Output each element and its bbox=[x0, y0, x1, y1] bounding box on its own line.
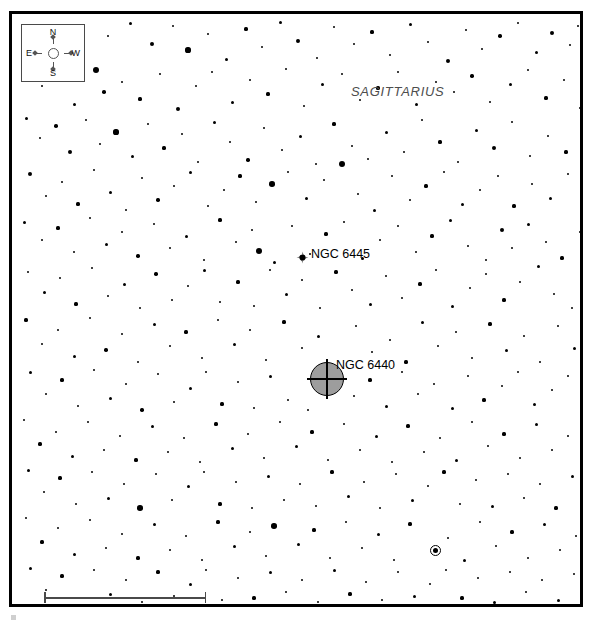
star bbox=[195, 85, 198, 88]
ngc-6445-planetary-nebula-marker[interactable] bbox=[296, 250, 309, 263]
star bbox=[305, 197, 308, 200]
star bbox=[136, 556, 139, 559]
star bbox=[25, 117, 28, 120]
star bbox=[151, 425, 154, 428]
star bbox=[235, 481, 238, 484]
star bbox=[43, 491, 46, 494]
star bbox=[567, 435, 570, 438]
star bbox=[460, 596, 463, 599]
star bbox=[329, 557, 332, 560]
star bbox=[261, 46, 263, 48]
star bbox=[507, 473, 510, 476]
star bbox=[312, 528, 315, 531]
star bbox=[25, 517, 28, 520]
star bbox=[481, 48, 483, 50]
star bbox=[253, 407, 255, 409]
star bbox=[393, 559, 396, 562]
compass-label-south: S bbox=[50, 69, 56, 78]
star bbox=[510, 530, 513, 533]
star bbox=[237, 577, 239, 579]
star bbox=[421, 321, 424, 324]
star bbox=[303, 105, 306, 108]
star bbox=[93, 369, 95, 371]
star bbox=[153, 223, 156, 226]
star bbox=[231, 101, 234, 104]
star bbox=[154, 272, 157, 275]
star bbox=[141, 177, 143, 179]
star bbox=[509, 571, 512, 574]
star bbox=[485, 273, 488, 276]
star bbox=[317, 601, 319, 603]
star bbox=[333, 26, 336, 29]
star bbox=[485, 259, 488, 262]
star bbox=[571, 475, 574, 478]
star bbox=[512, 204, 515, 207]
star bbox=[535, 423, 538, 426]
star bbox=[317, 335, 320, 338]
star bbox=[332, 122, 335, 125]
star bbox=[559, 549, 562, 552]
star bbox=[105, 547, 108, 550]
star bbox=[453, 91, 456, 94]
star bbox=[357, 193, 360, 196]
star bbox=[316, 57, 319, 60]
star bbox=[55, 431, 57, 433]
star bbox=[38, 442, 41, 445]
star bbox=[427, 41, 430, 44]
star bbox=[563, 79, 566, 82]
star bbox=[315, 163, 318, 166]
star bbox=[377, 533, 380, 536]
constellation-label: SAGITTARIUS bbox=[351, 85, 444, 98]
star bbox=[333, 569, 336, 572]
star bbox=[429, 583, 432, 586]
star bbox=[173, 185, 176, 188]
star bbox=[89, 317, 92, 320]
star bbox=[409, 199, 411, 201]
star bbox=[171, 499, 173, 501]
chart-frame: NGC 6440 NGC 6445 SAGITTARIUS N S E W 15… bbox=[9, 11, 583, 607]
star bbox=[461, 203, 464, 206]
star bbox=[134, 458, 137, 461]
star bbox=[421, 119, 424, 122]
star bbox=[93, 67, 99, 73]
star bbox=[467, 375, 470, 378]
star bbox=[389, 339, 391, 341]
star bbox=[406, 424, 409, 427]
star bbox=[153, 323, 156, 326]
star bbox=[571, 307, 574, 310]
star bbox=[269, 571, 272, 574]
star bbox=[156, 570, 159, 573]
star bbox=[549, 197, 552, 200]
star bbox=[482, 398, 485, 401]
star bbox=[413, 595, 416, 598]
star bbox=[237, 381, 240, 384]
star bbox=[103, 449, 106, 452]
star bbox=[544, 96, 547, 99]
star bbox=[557, 599, 560, 602]
star bbox=[502, 432, 505, 435]
star bbox=[435, 81, 437, 83]
star bbox=[430, 234, 433, 237]
star bbox=[137, 505, 143, 511]
star bbox=[375, 435, 378, 438]
star bbox=[445, 569, 448, 572]
star bbox=[463, 559, 466, 562]
star bbox=[60, 378, 63, 381]
star bbox=[553, 293, 555, 295]
star bbox=[283, 499, 286, 502]
unlabeled-planetary-nebula-marker[interactable] bbox=[429, 544, 442, 557]
star bbox=[435, 269, 438, 272]
star bbox=[345, 521, 348, 524]
star bbox=[281, 149, 283, 151]
star bbox=[547, 135, 549, 137]
star bbox=[501, 385, 504, 388]
star bbox=[251, 507, 253, 509]
star bbox=[424, 184, 427, 187]
star bbox=[213, 121, 216, 124]
star bbox=[282, 320, 285, 323]
star bbox=[197, 161, 199, 163]
star bbox=[169, 247, 171, 249]
star bbox=[569, 44, 572, 47]
star bbox=[107, 497, 110, 500]
star bbox=[359, 449, 361, 451]
